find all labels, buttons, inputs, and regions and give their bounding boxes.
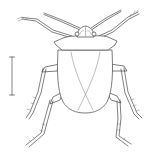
insect-illustration: Dorsal view of a shield bug (Hemiptera: … [0,0,155,152]
abdomen [58,50,113,113]
head [75,26,96,37]
scale-bar [10,57,15,95]
left-eye [75,32,79,36]
right-eye [92,32,96,36]
pronotum [54,36,117,50]
